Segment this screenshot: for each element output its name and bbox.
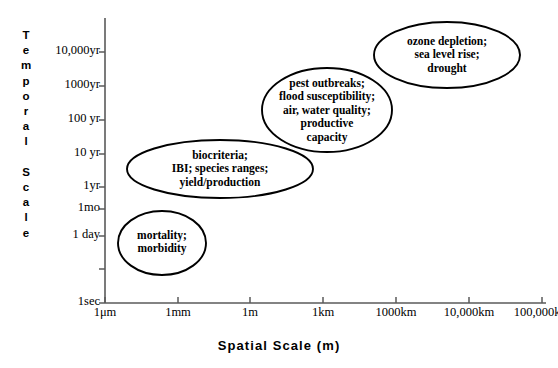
x-tick-marks	[105, 297, 542, 303]
chart-container: T e m p o r a l S c a l e	[0, 0, 558, 368]
x-axis-title: Spatial Scale (m)	[0, 338, 558, 353]
region-ellipse-pest-outbreaks	[262, 68, 392, 152]
region-ellipses	[118, 22, 520, 275]
region-ellipse-ozone-depletion	[374, 22, 520, 88]
region-ellipse-mortality	[118, 211, 206, 275]
region-ellipse-biocriteria	[127, 140, 313, 198]
